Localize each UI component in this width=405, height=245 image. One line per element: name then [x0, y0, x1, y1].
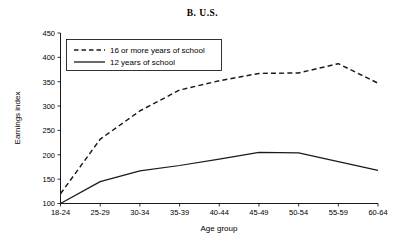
- x-tick-label-7: 55-59: [329, 208, 348, 217]
- y-tick-label-4: 300: [42, 102, 55, 111]
- y-tick-label-2: 200: [42, 151, 55, 160]
- x-tick-label-8: 60-64: [368, 208, 387, 217]
- series-line-1: [61, 152, 379, 203]
- x-tick-label-4: 40-44: [210, 208, 229, 217]
- y-tick-label-6: 400: [42, 53, 55, 62]
- y-tick-label-3: 250: [42, 126, 55, 135]
- x-tick-label-3: 35-39: [170, 208, 189, 217]
- earnings-index-line-chart: 100150200250300350400450 18-2425-2930-34…: [0, 0, 405, 245]
- y-tick-label-1: 150: [42, 175, 55, 184]
- y-axis-ticks: 100150200250300350400450: [42, 29, 60, 209]
- x-axis-ticks: 18-2425-2930-3435-3940-4445-4950-5455-59…: [51, 204, 388, 217]
- x-tick-label-1: 25-29: [91, 208, 110, 217]
- x-tick-label-0: 18-24: [51, 208, 70, 217]
- legend-label-0: 16 or more years of school: [110, 46, 205, 55]
- x-axis-title: Age group: [201, 224, 238, 233]
- y-tick-label-5: 350: [42, 78, 55, 87]
- y-tick-label-7: 450: [42, 29, 55, 38]
- series-group: [61, 64, 379, 204]
- x-tick-label-6: 50-54: [289, 208, 308, 217]
- chart-page: B. U.S. 100150200250300350400450 18-2425…: [0, 0, 405, 245]
- y-axis-title: Earnings index: [13, 92, 22, 145]
- x-tick-label-5: 45-49: [249, 208, 268, 217]
- series-line-0: [61, 64, 379, 194]
- legend-label-1: 12 years of school: [110, 58, 175, 67]
- x-tick-label-2: 30-34: [130, 208, 149, 217]
- chart-legend: 16 or more years of school 12 years of s…: [67, 40, 222, 71]
